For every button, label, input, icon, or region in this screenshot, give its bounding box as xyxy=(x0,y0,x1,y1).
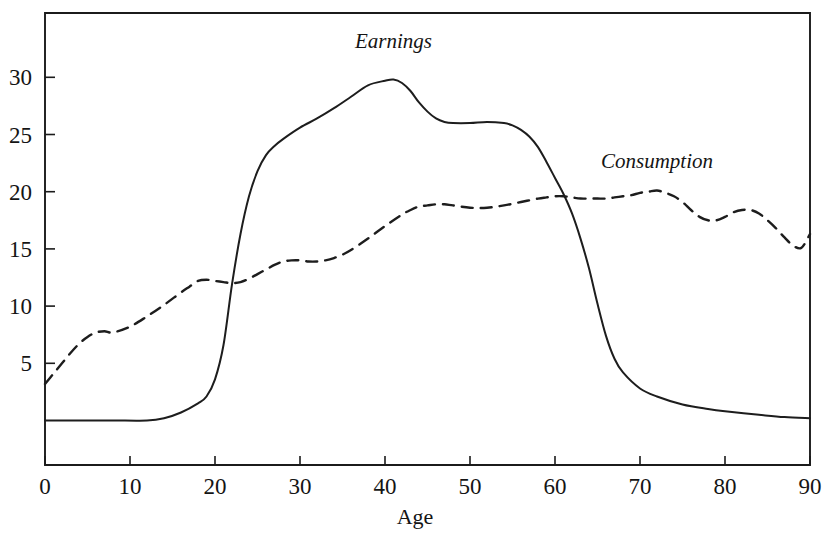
y-axis-ticks xyxy=(45,77,55,363)
y-tick-label: 20 xyxy=(9,180,32,205)
x-tick-label: 60 xyxy=(544,474,567,499)
chart-container: 0102030405060708090 51015202530 Earnings… xyxy=(0,0,830,542)
x-tick-label: 0 xyxy=(39,474,51,499)
x-tick-label: 20 xyxy=(204,474,227,499)
x-tick-label: 30 xyxy=(289,474,312,499)
x-tick-label: 40 xyxy=(374,474,397,499)
x-tick-label: 90 xyxy=(799,474,822,499)
series-line-consumption xyxy=(45,191,810,384)
y-tick-label: 5 xyxy=(21,351,33,376)
series-label-consumption: Consumption xyxy=(601,149,713,173)
x-axis-tick-labels: 0102030405060708090 xyxy=(39,474,821,499)
x-tick-label: 10 xyxy=(119,474,142,499)
x-tick-label: 80 xyxy=(714,474,737,499)
x-axis-title: Age xyxy=(397,504,434,529)
y-tick-label: 25 xyxy=(9,123,32,148)
x-axis-ticks xyxy=(45,456,810,465)
plot-frame xyxy=(45,13,810,465)
y-tick-label: 30 xyxy=(9,65,32,90)
y-axis-tick-labels: 51015202530 xyxy=(9,65,32,376)
y-tick-label: 10 xyxy=(9,294,32,319)
series-annotations: EarningsConsumption xyxy=(354,29,713,173)
x-tick-label: 70 xyxy=(629,474,652,499)
lifecycle-earnings-consumption-chart: 0102030405060708090 51015202530 Earnings… xyxy=(0,0,830,542)
data-series-group xyxy=(45,79,810,420)
y-tick-label: 15 xyxy=(9,237,32,262)
series-label-earnings: Earnings xyxy=(354,29,432,53)
x-tick-label: 50 xyxy=(459,474,482,499)
series-line-earnings xyxy=(45,79,810,420)
axis-frame xyxy=(45,13,810,465)
